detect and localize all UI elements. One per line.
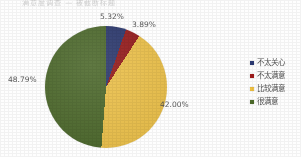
- legend-item-1[interactable]: 不太满意: [250, 69, 298, 82]
- slice-label-green: 48.79%: [8, 75, 37, 84]
- pie-slices: [45, 26, 167, 148]
- legend-item-0[interactable]: 不太关心: [250, 56, 298, 69]
- legend-item-label: 比较满意: [257, 84, 285, 93]
- legend-swatch-icon: [250, 61, 254, 65]
- slice-label-red: 3.89%: [132, 20, 156, 29]
- legend-item-3[interactable]: 很满意: [250, 95, 298, 108]
- chart-legend: 不太关心不太满意比较满意很满意: [250, 56, 298, 108]
- legend-item-label: 很满意: [257, 97, 278, 106]
- clipped-chart-title: 满意度调查 — 被截断标题: [22, 0, 254, 7]
- pie-chart: [45, 26, 167, 148]
- chart-canvas: 满意度调查 — 被截断标题 5.32% 3.89% 42.00% 48.79% …: [0, 0, 301, 157]
- legend-item-label: 不太满意: [257, 71, 285, 80]
- slice-label-navy: 5.32%: [100, 12, 124, 21]
- legend-swatch-icon: [250, 87, 254, 91]
- legend-item-label: 不太关心: [257, 58, 285, 67]
- legend-swatch-icon: [250, 100, 254, 104]
- slice-label-gold: 42.00%: [160, 100, 189, 109]
- legend-item-2[interactable]: 比较满意: [250, 82, 298, 95]
- legend-swatch-icon: [250, 74, 254, 78]
